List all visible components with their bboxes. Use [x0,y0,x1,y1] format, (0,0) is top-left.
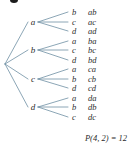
branch-line-c-a [38,69,68,79]
outcome-ab: ab [88,8,97,17]
branch-line-group [5,12,68,117]
branch-line-a-b [38,12,68,22]
tree-branch-lines [0,0,132,147]
branch-line-d-c [38,107,68,117]
outcome-bc: bc [88,46,96,55]
second-letter-leaf-ca: a [72,65,76,74]
permutation-tree-figure: abcd babcacdadabacbcdbdacabcbdcdadabdbcd… [0,0,132,147]
second-letter-leaf-ab: b [72,8,76,17]
outcome-cd: cd [88,84,96,93]
first-letter-node-b: b [31,46,36,55]
first-letter-node-c: c [31,75,35,84]
branch-line-root-a [5,22,28,64]
second-letter-leaf-bc: c [72,46,76,55]
branch-line-root-d [5,64,28,107]
branch-line-b-a [38,41,68,50]
figure-caption: P(4, 2) = 12 [85,133,127,143]
outcome-dc: dc [88,113,96,122]
branch-line-b-d [38,50,68,60]
outcome-ca: ca [88,65,96,74]
first-letter-node-d: d [31,103,36,112]
first-letter-node-a: a [31,18,36,27]
branch-line-a-d [38,22,68,31]
second-letter-leaf-dc: c [72,113,76,122]
branch-line-root-c [5,64,28,79]
outcome-db: db [88,103,97,112]
second-letter-leaf-db: b [72,103,76,112]
branch-line-c-d [38,79,68,88]
branch-line-d-a [38,98,68,107]
second-letter-leaf-cd: d [72,84,76,93]
outcome-ad: ad [88,27,97,36]
second-letter-leaf-ad: d [72,27,76,36]
